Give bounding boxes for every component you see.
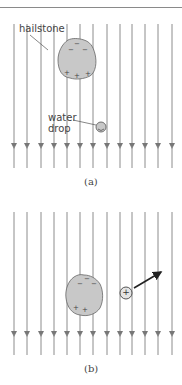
electric-field-diagram: − − − + + + − − − + + <box>0 0 182 385</box>
drop-charge-sign: + <box>121 287 131 297</box>
hailstone-leader-line <box>30 35 48 50</box>
svg-text:−: − <box>91 280 97 288</box>
svg-text:+: + <box>85 70 91 78</box>
drop-motion-arrow <box>134 272 161 288</box>
svg-text:+: + <box>82 306 88 314</box>
svg-text:+: + <box>64 69 70 77</box>
water-drop-label-line1: water <box>48 112 77 123</box>
svg-text:−: − <box>84 275 90 283</box>
caption-a: (a) <box>84 176 98 187</box>
svg-text:−: − <box>82 46 88 54</box>
hailstone-label: hailstone <box>19 23 65 34</box>
svg-text:+: + <box>73 304 79 312</box>
water-drop-label-line2: drop <box>48 123 71 134</box>
svg-text:−: − <box>68 46 74 54</box>
svg-text:+: + <box>74 72 80 80</box>
caption-b: (b) <box>84 363 98 374</box>
field-lines-panel-a <box>14 24 172 168</box>
svg-text:−: − <box>74 40 80 48</box>
svg-text:−: − <box>77 280 83 288</box>
